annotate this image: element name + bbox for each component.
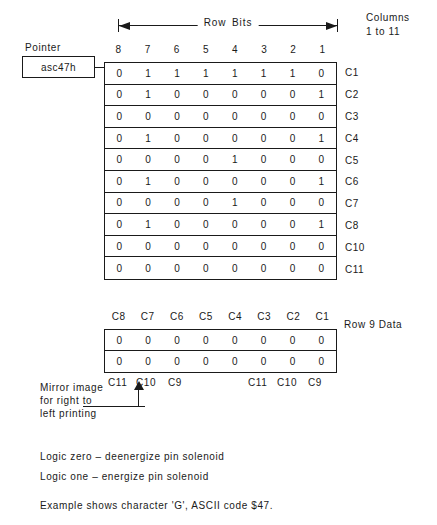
row9-bit-row: 00000000	[105, 351, 336, 372]
main-bit-cell-3-1: 1	[134, 128, 163, 149]
main-bit-cell-6-4: 1	[221, 193, 250, 214]
row-bits-label: Row Bits	[198, 17, 259, 28]
pointer-value-box: asc47h	[22, 56, 95, 78]
main-bit-cell-1-7: 1	[307, 85, 336, 106]
row9-bit-row: 00000000	[105, 330, 336, 351]
row9-bit-cell-1-2: 0	[163, 351, 192, 372]
main-bit-cell-3-4: 0	[221, 128, 250, 149]
main-col-header-0: 8	[104, 44, 133, 55]
main-bit-cell-8-3: 0	[192, 236, 221, 257]
row9-bit-cell-1-1: 0	[134, 351, 163, 372]
main-bit-cell-1-1: 1	[134, 85, 163, 106]
main-bit-cell-1-3: 0	[192, 85, 221, 106]
main-bit-cell-9-2: 0	[163, 257, 192, 279]
main-bit-cell-0-1: 1	[134, 63, 163, 84]
main-bit-cell-6-6: 0	[278, 193, 307, 214]
main-bit-cell-0-2: 1	[163, 63, 192, 84]
main-col-header-1: 7	[133, 44, 162, 55]
main-bit-cell-7-5: 0	[249, 214, 278, 235]
main-bit-cell-1-0: 0	[105, 85, 134, 106]
main-bit-cell-8-4: 0	[221, 236, 250, 257]
main-bit-cell-7-1: 1	[134, 214, 163, 235]
main-bit-cell-2-5: 0	[249, 106, 278, 127]
main-bit-row: 01000001	[105, 214, 336, 236]
example-caption: Example shows character 'G', ASCII code …	[40, 500, 273, 511]
main-bit-cell-0-3: 1	[192, 63, 221, 84]
main-bit-cell-6-0: 0	[105, 193, 134, 214]
row9-bit-cell-0-3: 0	[192, 330, 221, 350]
main-bit-cell-7-4: 0	[221, 214, 250, 235]
row9-bit-cell-1-4: 0	[221, 351, 250, 372]
main-bit-cell-9-5: 0	[249, 257, 278, 279]
row9-col-header-2: C6	[162, 311, 191, 322]
main-bit-row: 00001000	[105, 149, 336, 171]
row9-col-header-6: C2	[279, 311, 308, 322]
main-bit-cell-9-3: 0	[192, 257, 221, 279]
main-bit-cell-7-2: 0	[163, 214, 192, 235]
main-bit-row: 00000000	[105, 257, 336, 279]
main-bit-cell-4-2: 0	[163, 149, 192, 170]
main-bit-cell-1-2: 0	[163, 85, 192, 106]
main-bit-cell-2-6: 0	[278, 106, 307, 127]
main-bit-cell-5-2: 0	[163, 171, 192, 192]
row9-footer-right-c11: C11	[248, 376, 267, 389]
main-bit-cell-0-6: 1	[278, 63, 307, 84]
main-row-label-c11: C11	[337, 258, 397, 280]
row9-col-header-0: C8	[104, 311, 133, 322]
main-bit-cell-2-2: 0	[163, 106, 192, 127]
row9-bit-cell-1-0: 0	[105, 351, 134, 372]
main-bit-cell-9-6: 0	[278, 257, 307, 279]
row9-col-header-4: C4	[221, 311, 250, 322]
row9-footer-right-c10: C10	[277, 376, 297, 389]
main-row-label-c6: C6	[337, 171, 397, 193]
main-col-header-3: 5	[191, 44, 220, 55]
main-row-label-c7: C7	[337, 193, 397, 215]
row9-bit-cell-0-4: 0	[221, 330, 250, 350]
columns-note-line1: Columns	[366, 11, 410, 24]
main-bit-cell-4-4: 1	[221, 149, 250, 170]
main-col-header-2: 6	[162, 44, 191, 55]
main-row-label-c1: C1	[337, 62, 397, 84]
main-bit-cell-5-5: 0	[249, 171, 278, 192]
main-bit-cell-9-4: 0	[221, 257, 250, 279]
main-bit-cell-0-4: 1	[221, 63, 250, 84]
row9-bit-cell-1-6: 0	[278, 351, 307, 372]
main-bit-cell-9-1: 0	[134, 257, 163, 279]
main-bit-cell-0-5: 1	[249, 63, 278, 84]
legend-logic-one: Logic one – energize pin solenoid	[40, 471, 209, 482]
main-bit-cell-5-6: 0	[278, 171, 307, 192]
main-bit-cell-3-5: 0	[249, 128, 278, 149]
main-bit-cell-0-7: 0	[307, 63, 336, 84]
row-bits-right-cap	[337, 19, 338, 32]
main-bit-cell-2-4: 0	[221, 106, 250, 127]
main-bit-cell-4-5: 0	[249, 149, 278, 170]
main-col-header-5: 3	[250, 44, 279, 55]
main-bit-cell-2-7: 0	[307, 106, 336, 127]
row9-bit-cell-0-7: 0	[307, 330, 336, 350]
main-bit-cell-5-3: 0	[192, 171, 221, 192]
row9-footer-left-c11: C11	[108, 376, 127, 389]
main-bit-row: 01000001	[105, 171, 336, 193]
main-bit-cell-3-3: 0	[192, 128, 221, 149]
row9-col-header-5: C3	[250, 311, 279, 322]
main-bit-cell-2-3: 0	[192, 106, 221, 127]
main-bit-cell-3-0: 0	[105, 128, 134, 149]
main-bit-cell-6-2: 0	[163, 193, 192, 214]
main-bit-cell-1-6: 0	[278, 85, 307, 106]
main-bit-cell-5-0: 0	[105, 171, 134, 192]
main-bit-row: 01000001	[105, 128, 336, 150]
row9-col-header-3: C5	[191, 311, 220, 322]
main-bit-row: 01000001	[105, 85, 336, 107]
main-bit-cell-1-4: 0	[221, 85, 250, 106]
main-bit-cell-5-4: 0	[221, 171, 250, 192]
main-row-label-c3: C3	[337, 106, 397, 128]
main-bit-cell-4-1: 0	[134, 149, 163, 170]
row-bits-right-arrowhead-icon	[326, 22, 337, 30]
main-bit-cell-4-7: 0	[307, 149, 336, 170]
mirror-note-line1: Mirror image	[40, 382, 103, 393]
main-bit-cell-6-3: 0	[192, 193, 221, 214]
main-bit-cell-4-6: 0	[278, 149, 307, 170]
main-bit-cell-7-6: 0	[278, 214, 307, 235]
row9-bit-cell-0-6: 0	[278, 330, 307, 350]
main-bit-cell-7-7: 1	[307, 214, 336, 235]
